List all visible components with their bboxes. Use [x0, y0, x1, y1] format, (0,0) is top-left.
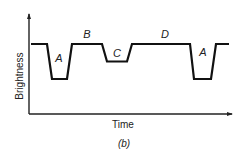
figure-caption: (b): [118, 138, 130, 149]
x-axis-label: Time: [112, 119, 134, 130]
segment-label-d: D: [161, 28, 169, 40]
y-axis-label: Brightness: [14, 52, 25, 99]
eclipsing-light-curve-figure: ABCDA Brightness Time (b): [0, 0, 240, 161]
segment-label-a: A: [198, 46, 206, 58]
segment-label-b: B: [83, 28, 90, 40]
segment-label-a: A: [54, 52, 62, 64]
segment-label-c: C: [113, 47, 121, 59]
